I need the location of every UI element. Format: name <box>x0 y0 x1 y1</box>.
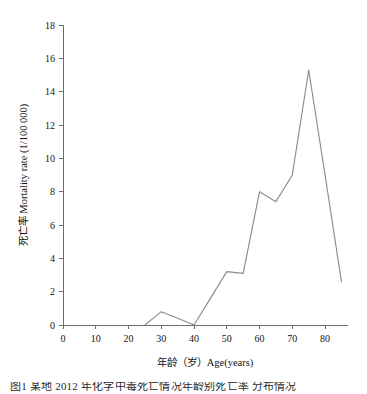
x-axis-tick-label: 60 <box>255 333 265 344</box>
x-axis-tick-label: 50 <box>222 333 232 344</box>
data-series-group <box>145 70 342 325</box>
y-axis-tick-label: 18 <box>45 20 55 31</box>
y-axis-ticks <box>59 25 63 325</box>
x-axis-ticks <box>63 325 325 329</box>
y-axis-tick-label: 6 <box>50 220 55 231</box>
x-axis-title: 年龄（岁）Age(years) <box>157 356 254 369</box>
y-axis-tick-label: 14 <box>45 86 55 97</box>
y-axis-tick-label: 4 <box>50 253 55 264</box>
y-axis-tick-label: 8 <box>50 186 55 197</box>
y-axis-tick-label: 16 <box>45 53 55 64</box>
figure-caption-strip: 图1 某地 2012 年化学中毒死亡情况年龄别死亡率 分布情况 <box>0 382 367 394</box>
y-axis-tick-label: 2 <box>50 286 55 297</box>
y-axis-title: 死亡率 Mortality rate (1/100 000) <box>17 103 30 246</box>
y-axis-tick-labels: 024681012141618 <box>45 20 55 331</box>
x-axis-tick-label: 20 <box>124 333 134 344</box>
chart-figure: 024681012141618 01020304050607080 年龄（岁）A… <box>0 0 367 394</box>
y-axis: 024681012141618 <box>45 20 63 331</box>
x-axis-tick-label: 80 <box>320 333 330 344</box>
mortality-rate-line <box>145 70 342 325</box>
y-axis-tick-label: 10 <box>45 153 55 164</box>
mortality-rate-line-chart: 024681012141618 01020304050607080 年龄（岁）A… <box>0 0 367 394</box>
x-axis-tick-label: 0 <box>61 333 66 344</box>
x-axis-tick-label: 70 <box>287 333 297 344</box>
figure-caption: 图1 某地 2012 年化学中毒死亡情况年龄别死亡率 分布情况 <box>10 382 362 393</box>
y-axis-tick-label: 0 <box>50 320 55 331</box>
x-axis-tick-label: 40 <box>189 333 199 344</box>
y-axis-tick-label: 12 <box>45 120 55 131</box>
x-axis-tick-labels: 01020304050607080 <box>61 333 331 344</box>
x-axis-tick-label: 10 <box>91 333 101 344</box>
x-axis: 01020304050607080 <box>61 325 349 344</box>
x-axis-tick-label: 30 <box>156 333 166 344</box>
